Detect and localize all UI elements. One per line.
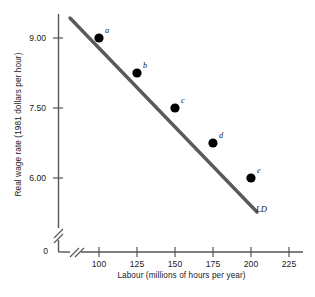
point-label-c: c [181,96,185,105]
data-point-markers [94,33,255,182]
labour-demand-line [70,18,257,212]
y-axis-title: Real wage rate (1981 dollars per hour) [14,25,23,225]
data-point-b [132,68,141,77]
data-point-e [246,173,255,182]
data-point-c [170,103,179,112]
y-tick-label-7.5: 7.50 [6,103,46,113]
origin-label: 0 [26,246,48,256]
x-tick-label-150: 150 [155,259,195,269]
point-label-d: d [219,131,223,140]
y-tick-label-9: 9.00 [6,33,46,43]
data-point-a [94,33,103,42]
x-tick-label-175: 175 [193,259,233,269]
y-tick-label-6: 6.00 [6,173,46,183]
data-point-d [208,138,217,147]
x-tick-label-200: 200 [231,259,271,269]
x-tick-label-100: 100 [79,259,119,269]
x-tick-label-225: 225 [269,259,309,269]
curve-label-ld: LD [256,204,267,214]
point-label-e: e [257,166,261,175]
point-label-b: b [143,61,147,70]
x-axis-title: Labour (millions of hours per year) [0,271,315,280]
x-tick-label-125: 125 [117,259,157,269]
demand-for-labour-chart: 9.00 7.50 6.00 0 100 125 150 175 200 225… [0,0,315,297]
point-label-a: a [105,26,109,35]
